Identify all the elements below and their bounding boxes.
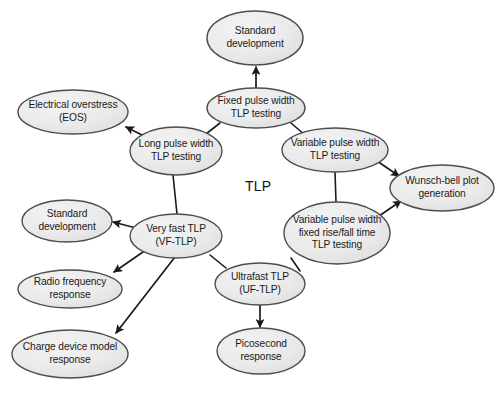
diagram-canvas — [0, 0, 499, 400]
node-standard-development-top[interactable] — [207, 11, 303, 65]
node-long-pulse-width-tlp-testing[interactable] — [130, 127, 222, 175]
tlp-taxonomy-diagram: Standard developmentElectrical overstres… — [0, 0, 499, 400]
edge-variable-to-wunsch-bell — [377, 161, 399, 176]
edge-very-fast-to-radio-frequency — [114, 252, 143, 272]
node-fixed-pulse-width-tlp-testing[interactable] — [207, 88, 305, 128]
node-wunsch-bell-plot-generation[interactable] — [390, 165, 494, 211]
node-variable-pulse-width-fixed-rise-fall[interactable] — [284, 202, 390, 264]
node-layer — [12, 11, 494, 378]
node-standard-development-left[interactable] — [22, 200, 112, 242]
edge-very-fast-to-standard-development — [113, 222, 136, 228]
node-variable-pulse-width-tlp-testing[interactable] — [282, 128, 388, 172]
node-ultrafast-tlp[interactable] — [215, 263, 305, 305]
node-charge-device-model-response[interactable] — [12, 330, 128, 378]
node-electrical-overstress[interactable] — [18, 90, 128, 134]
edge-long-to-very-fast — [173, 175, 177, 214]
node-radio-frequency-response[interactable] — [18, 270, 122, 308]
edge-variable-to-variable-fixed-rise-fall — [335, 172, 336, 202]
node-picosecond-response[interactable] — [217, 328, 305, 374]
center-label-tlp: TLP — [245, 178, 271, 194]
edge-variable-fixed-rise-fall-to-wunsch-bell — [379, 201, 401, 216]
edge-very-fast-to-charge-device-model — [116, 257, 175, 333]
node-very-fast-tlp[interactable] — [130, 214, 222, 258]
edge-long-to-fixed — [206, 123, 220, 134]
edge-very-fast-to-ultrafast — [210, 255, 226, 268]
